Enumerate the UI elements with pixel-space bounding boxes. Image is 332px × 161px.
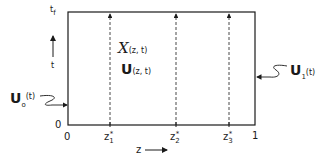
z-axis-label: z — [136, 145, 141, 155]
control-args: (z, t) — [132, 67, 151, 76]
right-input-symbol: U — [290, 62, 301, 78]
z-end-label: 1 — [252, 131, 258, 141]
origin-bottom-label: 0 — [64, 132, 70, 142]
control-symbol: U — [121, 61, 132, 77]
left-input-label: Uo(t) — [10, 90, 35, 109]
z1-star-label: z1* — [104, 131, 113, 145]
left-input-squiggle-icon — [40, 95, 67, 105]
z2-sup: * — [176, 130, 180, 138]
z3-sup: * — [229, 130, 233, 138]
z1-sup: * — [110, 130, 114, 138]
diagram-canvas — [0, 0, 332, 161]
left-input-args: (t) — [26, 92, 35, 101]
z2-sub: 2 — [175, 137, 179, 145]
time-label: t — [51, 62, 54, 70]
right-input-args: (t) — [306, 68, 315, 77]
z3-sub: 3 — [228, 137, 232, 145]
control-label: U(z, t) — [121, 61, 151, 77]
z2-star-label: z2* — [170, 131, 179, 145]
domain-box — [68, 12, 255, 125]
state-symbol: X — [118, 39, 129, 57]
time-final-label: tf — [50, 6, 56, 17]
state-label: X(z, t) — [118, 40, 147, 56]
z1-sub: 1 — [109, 137, 113, 145]
z3-star-label: z3* — [223, 131, 232, 145]
time-final-sub: f — [53, 9, 55, 17]
left-input-symbol: U — [10, 90, 21, 106]
right-input-label: U1(t) — [290, 62, 315, 81]
state-args: (z, t) — [129, 46, 148, 55]
origin-left-label: 0 — [55, 120, 61, 130]
right-input-squiggle-icon — [257, 65, 287, 77]
left-input-sub: o — [21, 101, 25, 109]
